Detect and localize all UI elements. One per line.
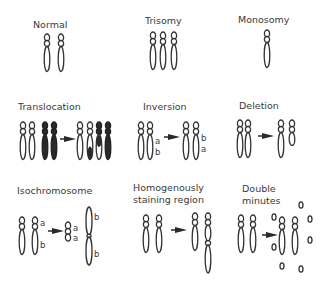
monosomy-chromosome bbox=[264, 30, 270, 68]
translocation-chromosomes bbox=[20, 122, 111, 160]
svg-text:a: a bbox=[73, 233, 78, 243]
chromosome-diagram: a b b a a b a a bbox=[0, 0, 327, 292]
double-minutes-chromosomes bbox=[238, 202, 312, 272]
isochromosome-chromosomes: a b a a b b bbox=[19, 207, 99, 265]
hsr-chromosomes bbox=[143, 213, 211, 273]
svg-text:a: a bbox=[40, 218, 45, 228]
trisomy-chromosomes bbox=[150, 32, 177, 70]
svg-text:a: a bbox=[155, 136, 160, 146]
svg-text:a: a bbox=[201, 144, 206, 154]
svg-text:b: b bbox=[155, 147, 160, 157]
deletion-chromosomes bbox=[237, 120, 295, 158]
inversion-chromosomes: a b b a bbox=[138, 122, 206, 160]
svg-text:b: b bbox=[201, 133, 206, 143]
svg-text:b: b bbox=[94, 249, 99, 259]
svg-text:b: b bbox=[94, 212, 99, 222]
normal-chromosomes bbox=[44, 34, 64, 72]
svg-text:a: a bbox=[73, 223, 78, 233]
svg-text:b: b bbox=[40, 240, 45, 250]
